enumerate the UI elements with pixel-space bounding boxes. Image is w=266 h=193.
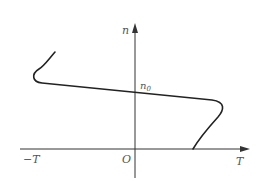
origin-label: O [122,153,131,166]
neg-t-label: −T [23,153,41,166]
t-axis-label: T [236,155,245,168]
n-axis-arrow-icon [132,23,138,33]
t-axis-arrow-icon [240,146,250,152]
n-axis-label: n [122,24,129,37]
diagram-canvas: n n0 O −T T [0,0,266,193]
n-vs-t-curve [34,52,223,149]
n0-label: n0 [140,80,151,93]
